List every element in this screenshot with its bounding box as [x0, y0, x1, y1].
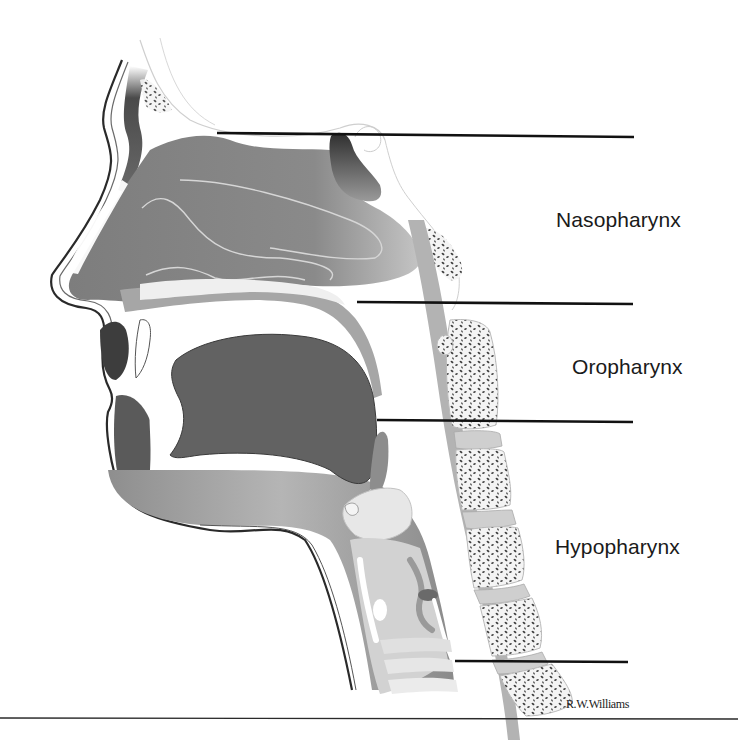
label-oropharynx: Oropharynx: [572, 355, 683, 379]
label-nasopharynx: Nasopharynx: [556, 208, 681, 232]
bottom-rule: [0, 718, 738, 719]
label-hypopharynx: Hypopharynx: [555, 535, 680, 559]
anatomy-diagram: Nasopharynx Oropharynx Hypopharynx R.W.W…: [0, 0, 738, 750]
larynx: [343, 488, 458, 694]
artist-credit: R.W.Williams: [566, 697, 629, 712]
